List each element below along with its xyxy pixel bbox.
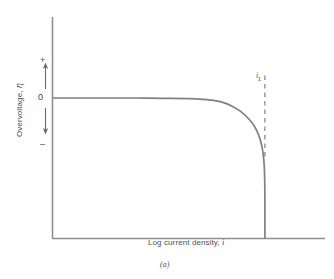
negative-direction-arrow-icon bbox=[43, 108, 48, 135]
x-axis-title: Log current density, i bbox=[148, 238, 224, 247]
y-axis-zero-label: 0 bbox=[38, 93, 43, 102]
y-axis-negative-sign: – bbox=[40, 140, 45, 149]
positive-direction-arrow-icon bbox=[43, 63, 48, 90]
limiting-current-subscript: L bbox=[258, 76, 261, 82]
y-axis-positive-sign: + bbox=[40, 56, 45, 65]
y-axis-title-text: Overvoltage, bbox=[15, 88, 24, 137]
figure-container: Overvoltage, η 0 + – iL Log current dens… bbox=[0, 0, 334, 279]
polarization-curve bbox=[53, 98, 265, 238]
x-axis-title-text: Log current density, bbox=[148, 238, 222, 247]
figure-caption: (a) bbox=[160, 261, 169, 269]
limiting-current-label: iL bbox=[256, 72, 262, 82]
x-axis-title-symbol: i bbox=[222, 237, 224, 247]
y-axis-title-symbol: η bbox=[15, 83, 24, 88]
y-axis-title: Overvoltage, η bbox=[13, 63, 27, 157]
